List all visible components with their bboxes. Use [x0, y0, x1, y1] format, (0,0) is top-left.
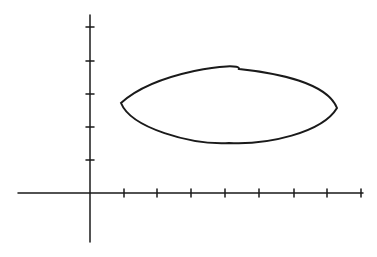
diagram-canvas: [0, 0, 377, 257]
lens-shaped-curve: [121, 66, 337, 143]
